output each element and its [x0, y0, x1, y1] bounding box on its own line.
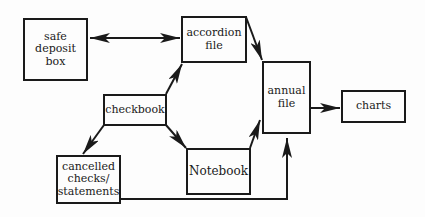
- edge-checkbook-accordion: [166, 64, 182, 94]
- node-charts: charts: [341, 90, 406, 123]
- node-annual-file: annual file: [262, 61, 311, 134]
- node-label: charts: [356, 100, 391, 113]
- node-checkbook: checkbook: [103, 94, 167, 126]
- edge-checkbook-notebook: [166, 125, 186, 148]
- node-label: checkbook: [105, 104, 165, 117]
- node-label: safe deposit box: [35, 31, 76, 69]
- node-safe-deposit-box: safe deposit box: [23, 18, 88, 81]
- edge-checkbook-cancelled: [83, 125, 104, 154]
- node-label: annual file: [268, 85, 306, 110]
- node-cancelled-checks: cancelled checks/ statements: [56, 155, 121, 204]
- node-notebook: Notebook: [186, 148, 251, 195]
- edge-accordion-annual: [246, 17, 262, 60]
- edge-notebook-annual: [250, 120, 260, 148]
- node-label: cancelled checks/ statements: [58, 161, 120, 199]
- node-label: Notebook: [189, 165, 248, 178]
- node-label: accordion file: [186, 27, 241, 52]
- node-accordion-file: accordion file: [181, 16, 247, 63]
